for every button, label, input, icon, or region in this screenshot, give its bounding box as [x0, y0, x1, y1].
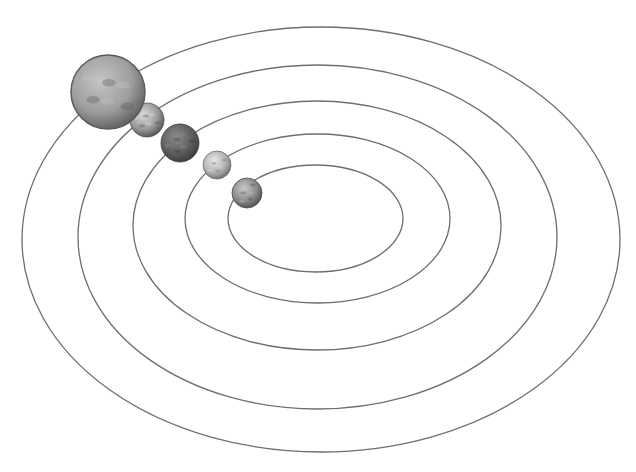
planet-texture: [248, 197, 253, 200]
planet-texture: [218, 165, 223, 168]
planet-texture: [215, 170, 220, 173]
planet-texture: [180, 133, 187, 137]
orbit-diagram: [0, 0, 636, 472]
planet-texture: [102, 79, 115, 86]
planet-texture: [145, 122, 151, 125]
planet-texture: [222, 159, 227, 162]
planet-texture: [248, 192, 253, 195]
planet-texture: [121, 103, 134, 110]
planet-texture: [207, 169, 212, 172]
planet-texture: [239, 200, 244, 203]
planet-texture: [241, 191, 246, 194]
planet-texture: [189, 139, 196, 143]
planet-2-icon: [203, 151, 231, 179]
planet-texture: [174, 149, 181, 153]
planet-texture: [241, 185, 246, 188]
planet-texture: [155, 121, 161, 124]
planet-texture: [173, 138, 180, 142]
planet-texture: [81, 75, 94, 82]
planet-texture: [139, 124, 145, 127]
planets-group: [71, 55, 262, 208]
planet-1-icon: [232, 178, 262, 208]
planet-5-icon: [71, 55, 145, 129]
planet-texture: [117, 82, 130, 89]
planet-texture: [143, 114, 149, 117]
planet-3-icon: [161, 124, 199, 162]
planet-texture: [149, 113, 155, 116]
planet-texture: [211, 162, 216, 165]
planet-texture: [250, 184, 255, 187]
planet-texture: [180, 145, 187, 149]
planet-texture: [164, 144, 171, 148]
planet-texture: [87, 96, 100, 103]
planet-texture: [214, 157, 219, 160]
planet-texture: [101, 98, 114, 105]
